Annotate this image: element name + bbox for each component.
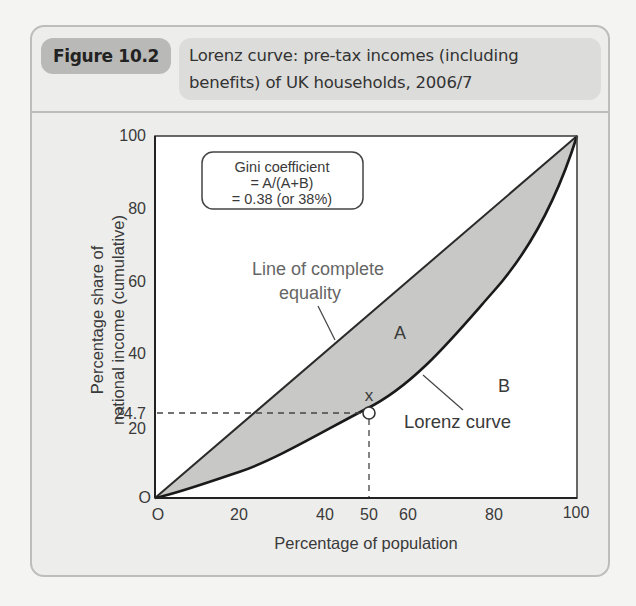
- point-x-marker: [363, 407, 375, 419]
- gini-line3: = 0.38 (or 38%): [232, 191, 332, 207]
- x-tick-40: 40: [316, 506, 334, 523]
- x-tick-20: 20: [230, 506, 248, 523]
- y-tick-60: 60: [128, 273, 146, 290]
- y-tick-20: 20: [128, 420, 146, 437]
- y-tick-0: O: [139, 489, 151, 506]
- y-tick-40: 40: [128, 345, 146, 362]
- equality-label-line2: equality: [279, 283, 341, 303]
- point-x-label: x: [365, 386, 374, 405]
- x-tick-50: 50: [360, 506, 378, 523]
- y-axis-label-line1: Percentage share of: [88, 245, 106, 394]
- y-tick-100: 100: [119, 127, 146, 144]
- gini-line1: Gini coefficient: [235, 159, 330, 175]
- x-tick-60: 60: [399, 506, 417, 523]
- y-tick-80: 80: [128, 200, 146, 217]
- x-tick-100: 100: [563, 504, 590, 521]
- x-tick-80: 80: [485, 506, 503, 523]
- y-axis-label-line2: national income (cumulative): [109, 215, 127, 425]
- lorenz-chart: Gini coefficient = A/(A+B) = 0.38 (or 38…: [0, 0, 636, 606]
- x-axis-label: Percentage of population: [274, 534, 457, 552]
- region-a-label: A: [394, 323, 406, 343]
- gini-line2: = A/(A+B): [251, 175, 314, 191]
- equality-label-line1: Line of complete: [252, 259, 384, 279]
- x-tick-0: O: [152, 506, 164, 523]
- lorenz-curve-label: Lorenz curve: [404, 411, 511, 432]
- region-b-label: B: [498, 376, 510, 396]
